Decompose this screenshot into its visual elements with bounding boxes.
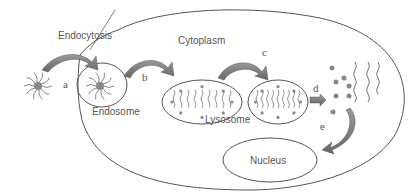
nanoparticle-outside bbox=[24, 73, 52, 100]
polymer-chain bbox=[272, 90, 274, 108]
ligand-arm bbox=[24, 85, 34, 86]
arrow-d bbox=[310, 94, 326, 106]
polymer-chain bbox=[187, 90, 189, 108]
ligand-arm bbox=[101, 73, 104, 83]
drug-dot bbox=[292, 90, 295, 93]
arrow-e bbox=[322, 108, 355, 154]
diagram-canvas: Endocytosis Cytoplasm Endosome Lysosome … bbox=[0, 0, 420, 196]
drug-dot bbox=[260, 90, 263, 93]
ligand-arm bbox=[41, 88, 49, 94]
drug-dot bbox=[276, 116, 279, 119]
lysosome-1-contents bbox=[170, 85, 233, 119]
drug-dot bbox=[222, 90, 225, 93]
polymer-chain bbox=[288, 90, 290, 108]
released-polymer-chains bbox=[354, 62, 380, 102]
polymer-chain bbox=[277, 90, 279, 108]
ligand-arm bbox=[103, 78, 111, 84]
ligand-arm bbox=[27, 78, 35, 84]
polymer-chain bbox=[201, 90, 203, 108]
ligand-arm bbox=[103, 88, 111, 94]
drug-dot bbox=[200, 85, 203, 88]
arrow-a bbox=[42, 54, 98, 72]
polymer-chain bbox=[173, 90, 175, 108]
label-endosome: Endosome bbox=[92, 106, 140, 117]
polymer-chain bbox=[298, 90, 300, 108]
ligand-arm bbox=[42, 86, 52, 87]
drug-dot bbox=[276, 85, 279, 88]
released-drug-dots bbox=[330, 66, 352, 115]
drug-dot bbox=[200, 116, 203, 119]
ligand-arm bbox=[104, 86, 114, 87]
endocytosis-diagram: Endocytosis Cytoplasm Endosome Lysosome … bbox=[0, 0, 420, 196]
drug-dot bbox=[170, 100, 173, 103]
drug-dot bbox=[254, 100, 257, 103]
drug-dot bbox=[230, 100, 233, 103]
step-d: d bbox=[313, 82, 319, 94]
polymer-chain bbox=[215, 90, 217, 108]
ligand-arm bbox=[34, 73, 37, 83]
arrow-b bbox=[124, 60, 174, 78]
drug-dot bbox=[299, 100, 302, 103]
polymer-chain bbox=[194, 90, 196, 108]
polymer-chain bbox=[208, 90, 210, 108]
ligand-arm bbox=[33, 90, 36, 100]
ligand-arm bbox=[89, 78, 97, 84]
ligand-arm bbox=[96, 73, 99, 83]
nanoparticle-in-endosome bbox=[86, 73, 114, 100]
ligand-arm bbox=[86, 85, 96, 86]
ligand-arm bbox=[95, 90, 98, 100]
polymer-chain bbox=[267, 90, 269, 108]
step-b: b bbox=[142, 71, 148, 83]
step-e: e bbox=[320, 120, 325, 132]
ligand-arm bbox=[39, 73, 42, 83]
drug-dot bbox=[179, 111, 182, 114]
ligand-arm bbox=[89, 88, 97, 94]
polymer-chain bbox=[282, 90, 284, 108]
ligand-arm bbox=[27, 88, 35, 94]
ligand-arm bbox=[101, 90, 104, 100]
lysosome-2-contents bbox=[254, 85, 302, 119]
polymer-chain bbox=[256, 90, 258, 108]
drug-dot bbox=[292, 111, 295, 114]
polymer-chain bbox=[229, 90, 231, 108]
ligand-arm bbox=[41, 78, 49, 84]
drug-dot bbox=[260, 111, 263, 114]
drug-dot bbox=[179, 90, 182, 93]
drug-dot bbox=[222, 111, 225, 114]
label-nucleus: Nucleus bbox=[250, 155, 286, 166]
label-cytoplasm: Cytoplasm bbox=[178, 35, 225, 46]
step-a: a bbox=[63, 78, 68, 90]
cell-membrane bbox=[78, 10, 404, 190]
label-endocytosis: Endocytosis bbox=[58, 30, 112, 41]
label-lysosome: Lysosome bbox=[205, 114, 251, 125]
arrow-c bbox=[218, 63, 268, 80]
ligand-arm bbox=[39, 90, 42, 100]
step-c: c bbox=[262, 46, 267, 58]
